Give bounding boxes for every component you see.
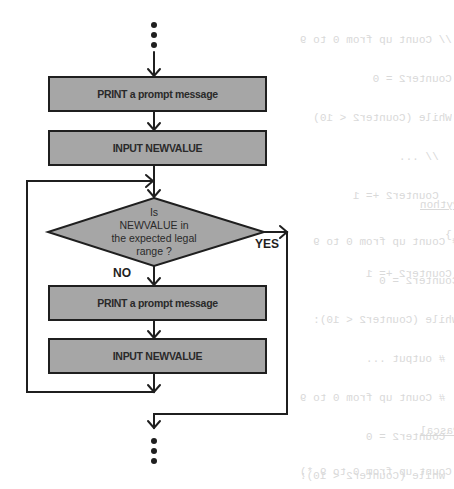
decision-line-1: Is xyxy=(84,206,224,219)
yes-branch-label: YES xyxy=(255,237,279,251)
process-print-prompt-2: PRINT a prompt message xyxy=(48,285,267,321)
ellipsis-dot-icon xyxy=(151,448,157,454)
decision-line-4: range ? xyxy=(84,245,224,258)
process-label: PRINT a prompt message xyxy=(97,297,218,309)
decision-label: Is NEWVALUE in the expected legal range … xyxy=(84,206,224,258)
decision-line-2: NEWVALUE in xyxy=(84,219,224,232)
ellipsis-dot-icon xyxy=(151,42,157,48)
no-branch-label: NO xyxy=(113,266,131,280)
decision-line-3: the expected legal xyxy=(84,232,224,245)
ellipsis-dot-icon xyxy=(151,458,157,464)
ellipsis-dot-icon xyxy=(151,32,157,38)
process-label: INPUT NEWVALUE xyxy=(113,350,203,362)
connector-yes-branch xyxy=(154,232,287,428)
process-label: PRINT a prompt message xyxy=(97,88,218,100)
ellipsis-dot-icon xyxy=(151,438,157,444)
ellipsis-dot-icon xyxy=(151,22,157,28)
process-input-newvalue-1: INPUT NEWVALUE xyxy=(48,130,267,166)
flowchart-connectors xyxy=(0,0,454,489)
process-print-prompt-1: PRINT a prompt message xyxy=(48,76,267,112)
process-input-newvalue-2: INPUT NEWVALUE xyxy=(48,338,267,374)
process-label: INPUT NEWVALUE xyxy=(113,142,203,154)
